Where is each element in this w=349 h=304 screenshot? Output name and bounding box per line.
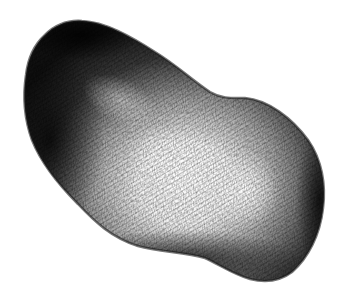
potato-illustration [0, 0, 349, 304]
illustration-canvas: Hatched pen-and-ink illustration of a ki… [0, 0, 349, 304]
